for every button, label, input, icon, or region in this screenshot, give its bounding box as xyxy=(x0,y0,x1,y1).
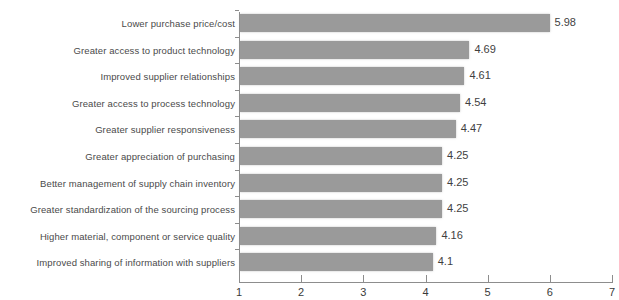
category-label: Lower purchase price/cost xyxy=(0,18,241,29)
bar-value-label: 4.1 xyxy=(438,255,453,267)
bar xyxy=(240,14,550,32)
category-label: Better management of supply chain invent… xyxy=(0,178,241,189)
bar-value-label: 4.54 xyxy=(465,96,486,108)
x-axis-tick-label: 7 xyxy=(609,286,615,298)
x-axis-line xyxy=(239,282,613,283)
x-axis-tick-label: 1 xyxy=(236,286,242,298)
cut-off-title xyxy=(8,0,308,7)
category-label: Greater access to product technology xyxy=(0,45,241,56)
y-axis-tick xyxy=(235,10,239,11)
bar-value-label: 5.98 xyxy=(555,16,576,28)
y-axis-tick xyxy=(235,90,239,91)
category-label: Improved supplier relationships xyxy=(0,71,241,82)
x-axis-tick-label: 6 xyxy=(547,286,553,298)
x-axis-tick-label: 2 xyxy=(298,286,304,298)
x-axis-tick-label: 3 xyxy=(360,286,366,298)
bar xyxy=(240,67,464,85)
y-axis-tick xyxy=(235,116,239,117)
y-axis-tick xyxy=(235,170,239,171)
bar xyxy=(240,147,442,165)
y-axis-tick xyxy=(235,249,239,250)
bar xyxy=(240,41,469,59)
category-label: Greater standardization of the sourcing … xyxy=(0,204,241,215)
y-axis-tick xyxy=(235,143,239,144)
bar-chart: Lower purchase price/costGreater access … xyxy=(0,0,619,300)
y-axis-tick xyxy=(235,63,239,64)
x-axis-tick xyxy=(301,275,302,282)
y-axis-tick xyxy=(235,223,239,224)
x-axis-tick xyxy=(550,275,551,282)
bar-value-label: 4.47 xyxy=(461,122,482,134)
bar xyxy=(240,94,460,112)
bar xyxy=(240,174,442,192)
y-axis-tick xyxy=(235,196,239,197)
x-axis-tick xyxy=(488,275,489,282)
bar-value-label: 4.69 xyxy=(474,43,495,55)
bar-value-label: 4.25 xyxy=(447,176,468,188)
bar xyxy=(240,253,433,271)
bar xyxy=(240,227,436,245)
x-axis-tick-label: 5 xyxy=(485,286,491,298)
x-axis-tick xyxy=(239,275,240,282)
bar xyxy=(240,200,442,218)
y-axis-tick xyxy=(235,37,239,38)
bar-value-label: 4.25 xyxy=(447,202,468,214)
x-axis-tick xyxy=(363,275,364,282)
category-label: Greater supplier responsiveness xyxy=(0,124,241,135)
x-axis-tick xyxy=(612,275,613,282)
category-label: Improved sharing of information with sup… xyxy=(0,257,241,268)
category-label: Greater appreciation of purchasing xyxy=(0,151,241,162)
bar-value-label: 4.16 xyxy=(441,229,462,241)
plot-area: 5.984.694.614.544.474.254.254.254.164.1 … xyxy=(239,12,612,282)
x-axis-tick-label: 4 xyxy=(422,286,428,298)
category-label: Higher material, component or service qu… xyxy=(0,231,241,242)
category-label: Greater access to process technology xyxy=(0,98,241,109)
bar-value-label: 4.25 xyxy=(447,149,468,161)
bar xyxy=(240,120,456,138)
bar-value-label: 4.61 xyxy=(469,69,490,81)
x-axis-tick xyxy=(426,275,427,282)
